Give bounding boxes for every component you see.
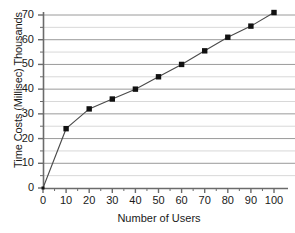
data-point-marker [225, 35, 230, 40]
data-point-marker [179, 62, 184, 67]
data-point-marker [110, 96, 115, 101]
data-point-marker [42, 187, 45, 190]
data-point-marker [271, 10, 276, 15]
plot-area [0, 0, 295, 233]
data-point-marker [248, 23, 253, 28]
data-line [43, 13, 274, 188]
data-markers [42, 10, 277, 190]
minor-gridlines [44, 27, 295, 175]
data-point-marker [87, 106, 92, 111]
major-gridlines [44, 15, 295, 163]
data-point-marker [202, 48, 207, 53]
chart-container: Time Costs (Millisec) Thousands Number o… [0, 0, 295, 233]
data-point-marker [133, 86, 138, 91]
data-point-marker [156, 74, 161, 79]
data-point-marker [63, 126, 68, 131]
